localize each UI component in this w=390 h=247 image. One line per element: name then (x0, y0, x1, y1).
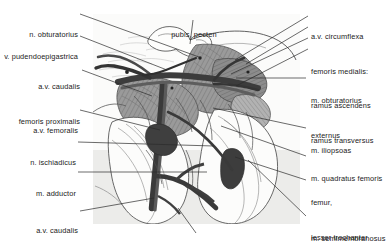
label-m-semimembranosus: m. semimembranosus (311, 210, 390, 247)
label-m-adductor-line-0: m. adductor (0, 188, 76, 200)
label-av-caudalis-femoris-proximalis-line-0: a.v. caudalis (0, 81, 80, 93)
label-femur-lesser-trochanter-line-0: femur, (311, 197, 390, 209)
label-pubis-pecten-line-0: pubis, pecten (152, 29, 236, 41)
label-av-caudalis-femoris-media-line-0: a.v. caudalis (0, 225, 78, 237)
figure-page: pubis, pecten n. obturatorius v. pudendo… (0, 0, 390, 247)
label-av-caudalis-femoris-media: a.v. caudalis femoris media (0, 202, 78, 247)
label-m-obturatorius-externus-line-0: m. obturatorius (311, 95, 390, 107)
label-m-semimembranosus-line-0: m. semimembranosus (311, 233, 390, 245)
label-m-semitendinosus: m. semitendinosus (155, 234, 239, 247)
label-av-circumflexa-femoris-medialis-line-0: a.v. circumflexa (311, 31, 390, 43)
label-pubis-pecten: pubis, pecten (152, 6, 236, 64)
